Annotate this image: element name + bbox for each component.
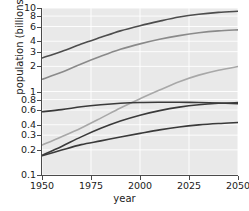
y-tick-mark	[37, 66, 42, 67]
x-tick-label: 2025	[177, 181, 201, 191]
x-tick-label: 2050	[226, 181, 249, 191]
y-tick-mark	[37, 135, 42, 136]
y-tick-mark	[37, 8, 42, 9]
x-axis-label: year	[0, 194, 249, 204]
y-tick-label: 0.2	[21, 145, 36, 155]
x-tick-label: 2000	[128, 181, 152, 191]
y-tick-label: 0.3	[21, 130, 36, 140]
y-tick-mark	[37, 41, 42, 42]
y-tick-label: 0.1	[21, 170, 36, 180]
population-projection-chart: 0.10.20.30.40.60.812346810 1950197520002…	[0, 0, 249, 211]
plot-area	[42, 8, 238, 175]
y-tick-mark	[37, 16, 42, 17]
y-tick-label: 0.4	[21, 120, 36, 130]
x-tick-label: 1950	[30, 181, 54, 191]
y-axis-label: population (billions)	[15, 0, 25, 120]
y-tick-label: 4	[30, 36, 36, 46]
y-tick-mark	[37, 92, 42, 93]
y-tick-mark	[37, 125, 42, 126]
y-tick-mark	[37, 110, 42, 111]
plot-canvas	[42, 8, 238, 175]
y-tick-mark	[37, 150, 42, 151]
y-tick-mark	[37, 27, 42, 28]
y-tick-label: 2	[30, 62, 36, 72]
y-tick-label: 6	[30, 22, 36, 32]
y-tick-label: 10	[24, 3, 36, 13]
x-tick-label: 1975	[79, 181, 103, 191]
y-tick-label: 3	[30, 47, 36, 57]
y-tick-mark	[37, 52, 42, 53]
y-tick-mark	[37, 100, 42, 101]
y-tick-label: 1	[30, 87, 36, 97]
